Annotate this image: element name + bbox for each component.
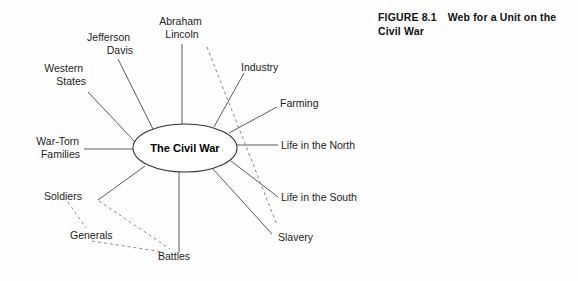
spoke-slavery bbox=[213, 169, 272, 234]
node-label-western-states[interactable]: Western States bbox=[44, 62, 86, 87]
node-label-industry[interactable]: Industry bbox=[241, 61, 279, 73]
spoke-western-states bbox=[88, 92, 137, 144]
node-label-abraham-lincoln[interactable]: Abraham Lincoln bbox=[159, 15, 205, 40]
dashed-link-soldiers-generals bbox=[68, 202, 86, 228]
spoke-industry bbox=[214, 73, 244, 127]
dashed-link-generals-battles bbox=[92, 241, 163, 252]
spoke-life-in-the-south bbox=[231, 161, 278, 197]
node-label-farming[interactable]: Farming bbox=[280, 97, 319, 109]
center-node-label: The Civil War bbox=[150, 142, 220, 154]
node-label-generals[interactable]: Generals bbox=[70, 229, 113, 241]
node-label-soldiers[interactable]: Soldiers bbox=[44, 190, 82, 202]
figure-caption: FIGURE 8.1Web for a Unit on the Civil Wa… bbox=[378, 11, 568, 39]
node-label-war-torn-families[interactable]: War-Torn Families bbox=[36, 135, 82, 160]
node-label-slavery[interactable]: Slavery bbox=[278, 231, 314, 243]
spoke-farming bbox=[229, 107, 277, 133]
spoke-jefferson-davis bbox=[118, 59, 154, 131]
spoke-soldiers bbox=[98, 166, 145, 200]
figure-container: The Civil War Abraham Lincoln Jefferson … bbox=[0, 0, 578, 281]
node-label-jefferson-davis[interactable]: Jefferson Davis bbox=[87, 31, 133, 56]
concept-web-diagram: The Civil War Abraham Lincoln Jefferson … bbox=[0, 0, 578, 281]
figure-caption-number: FIGURE 8.1 bbox=[378, 11, 437, 23]
dashed-link-soldiers-battles bbox=[99, 201, 170, 249]
node-label-life-in-the-north[interactable]: Life in the North bbox=[281, 139, 355, 151]
node-label-life-in-the-south[interactable]: Life in the South bbox=[281, 191, 357, 203]
node-label-battles[interactable]: Battles bbox=[158, 250, 190, 262]
